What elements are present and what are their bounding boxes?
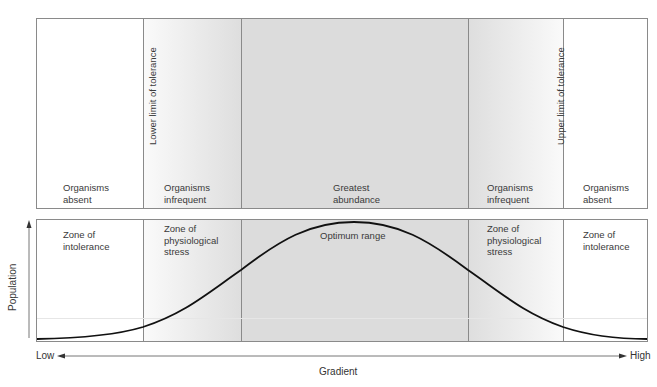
- left-arrow-icon: [57, 354, 65, 359]
- up-arrow-icon: [27, 220, 32, 228]
- population-curve: [37, 222, 647, 339]
- right-arrow-icon: [619, 354, 627, 359]
- y-axis-label: Population: [7, 264, 18, 311]
- x-axis-low: Low: [36, 350, 54, 361]
- diagram-overlay: [0, 0, 657, 387]
- x-axis-high: High: [630, 350, 651, 361]
- x-axis-label: Gradient: [319, 366, 357, 377]
